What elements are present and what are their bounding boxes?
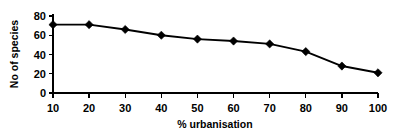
series-markers [49, 21, 382, 77]
data-point-marker [338, 62, 346, 70]
data-point-marker [302, 48, 310, 56]
x-tick-label: 60 [227, 102, 239, 114]
x-tick-label: 40 [155, 102, 167, 114]
x-tick-label: 30 [119, 102, 131, 114]
y-tick-label: 60 [34, 29, 46, 41]
x-axis-tick-labels: 102030405060708090100 [47, 102, 387, 114]
data-point-marker [121, 25, 129, 33]
x-tick-label: 80 [300, 102, 312, 114]
series-line-no-of-species [53, 25, 378, 73]
x-axis-title: % urbanisation [177, 118, 252, 130]
y-tick-label: 40 [34, 49, 46, 61]
x-tick-label: 70 [264, 102, 276, 114]
data-point-marker [193, 35, 201, 43]
data-point-marker [85, 21, 93, 29]
chart-container: 020406080 102030405060708090100 % urbani… [0, 0, 400, 135]
x-tick-label: 20 [83, 102, 95, 114]
data-point-marker [49, 21, 57, 29]
line-chart: 020406080 102030405060708090100 % urbani… [0, 0, 400, 135]
data-point-marker [229, 37, 237, 45]
x-tick-label: 90 [336, 102, 348, 114]
x-tick-label: 50 [191, 102, 203, 114]
y-tick-label: 0 [40, 87, 46, 99]
y-tick-label: 80 [34, 10, 46, 22]
y-axis-title: No of species [8, 20, 20, 88]
x-tick-label: 10 [47, 102, 59, 114]
data-point-marker [374, 69, 382, 77]
data-point-marker [266, 40, 274, 48]
data-point-marker [157, 31, 165, 39]
y-tick-label: 20 [34, 68, 46, 80]
x-tick-label: 100 [369, 102, 387, 114]
y-axis-tick-labels: 020406080 [34, 10, 46, 99]
